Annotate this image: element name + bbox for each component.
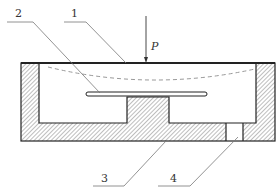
leader-line-1 [64,22,126,63]
load-label: P [150,40,159,53]
callout-label-3: 3 [101,172,108,185]
callout-label-1: 1 [71,7,78,20]
callout-label-2: 2 [15,7,22,20]
tube [86,92,207,96]
vent-hole [226,123,243,141]
deflection-curve [48,67,255,80]
cross-section-diagram: P 1 2 3 4 [0,0,280,195]
load-arrow-icon [144,16,148,63]
callout-label-4: 4 [170,172,177,185]
